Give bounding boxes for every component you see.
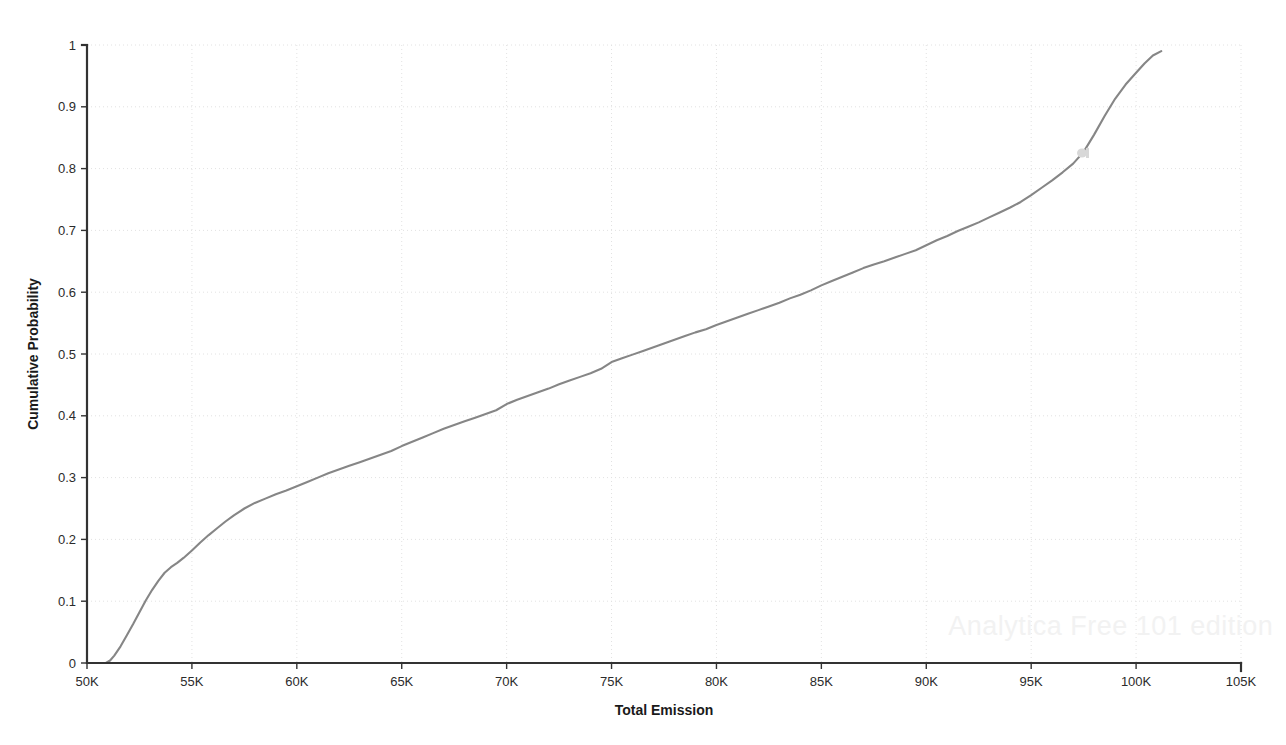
y-tick-label: 0.9	[58, 99, 76, 114]
y-tick-label: 0.8	[58, 161, 76, 176]
y-tick-label: 0.6	[58, 285, 76, 300]
x-tick-label: 95K	[1020, 674, 1043, 689]
x-axis-title: Total Emission	[615, 702, 714, 718]
x-tick-label: 60K	[285, 674, 308, 689]
y-tick-label: 1	[69, 38, 76, 53]
y-tick-label: 0.4	[58, 408, 76, 423]
plot-artifact-mark	[1086, 148, 1089, 158]
y-axis-title: Cumulative Probability	[25, 278, 41, 430]
x-tick-label: 85K	[810, 674, 833, 689]
x-tick-label: 90K	[915, 674, 938, 689]
x-tick-label: 70K	[495, 674, 518, 689]
x-tick-label: 75K	[600, 674, 623, 689]
chart-figure: Analytica Free 101 edition 50K55K60K65K7…	[0, 0, 1286, 745]
y-tick-label: 0.7	[58, 223, 76, 238]
y-tick-label: 0.5	[58, 347, 76, 362]
watermark-label: Analytica Free 101 edition	[948, 611, 1273, 641]
x-tick-label: 50K	[75, 674, 98, 689]
cdf-line-chart: Analytica Free 101 edition 50K55K60K65K7…	[0, 0, 1286, 745]
y-tick-label: 0	[69, 656, 76, 671]
x-tick-label: 100K	[1121, 674, 1152, 689]
x-tick-label: 65K	[390, 674, 413, 689]
y-tick-label: 0.2	[58, 532, 76, 547]
x-tick-label: 80K	[705, 674, 728, 689]
plot-artifact-spot	[1077, 149, 1087, 158]
x-tick-label: 105K	[1226, 674, 1257, 689]
x-tick-label: 55K	[180, 674, 203, 689]
y-tick-label: 0.1	[58, 594, 76, 609]
y-tick-label: 0.3	[58, 470, 76, 485]
watermark: Analytica Free 101 edition	[948, 611, 1273, 641]
